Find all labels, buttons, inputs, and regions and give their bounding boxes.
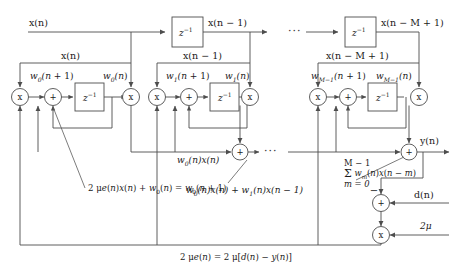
- tap-2-input-label: x(n − M + 1): [326, 51, 389, 61]
- minus-sign-label: −: [369, 186, 379, 196]
- error-gain-multiplier-symbol: x: [375, 231, 387, 240]
- tap-1-multiplier-symbol: x: [151, 93, 163, 102]
- delay-block-2-label: z−1: [352, 27, 366, 38]
- tap-0-multiplier-symbol: x: [14, 93, 26, 102]
- delay-block-1-label: z−1: [179, 27, 193, 38]
- tap-2-weight-next-label: wM−1(n + 1): [311, 72, 366, 83]
- summing-junction-1-symbol: +: [234, 148, 246, 157]
- delay-1-output-label: x(n − 1): [208, 18, 247, 28]
- desired-signal-label: d(n): [414, 190, 434, 200]
- tap-1-weight-next-label: w1(n + 1): [166, 72, 209, 83]
- block-diagram-svg: [0, 0, 464, 275]
- tap-2-adder-symbol: +: [342, 93, 354, 102]
- tap-2-multiplier-symbol: x: [312, 93, 324, 102]
- summation-ellipsis: ···: [264, 146, 278, 157]
- tap-2-weight-label: wM−1(n): [376, 72, 412, 83]
- delay-line-ellipsis: ···: [288, 26, 302, 37]
- tap-0-weight-next-label: w0(n + 1): [30, 72, 73, 83]
- error-adder-symbol: +: [375, 199, 387, 208]
- tap-0-adder-symbol: +: [47, 93, 59, 102]
- sum-lower-limit: m = 0: [344, 180, 416, 189]
- tap-0-input-label: x(n): [61, 51, 80, 61]
- tap-0-output-multiplier-symbol: x: [125, 93, 137, 102]
- output-label: y(n): [420, 136, 439, 146]
- tap-1-delay-label: z−1: [218, 92, 232, 103]
- tap-0-update-equation: 2 μe(n)x(n) + w0(n) = w0(n + 1): [88, 184, 226, 196]
- tap-0-product-label: w0(n)x(n): [177, 156, 219, 167]
- gain-label: 2μ: [420, 222, 432, 231]
- tap-0-weight-label: w0(n): [103, 72, 127, 83]
- output-adder-symbol: +: [403, 148, 415, 157]
- figure-canvas: x(n) x(n − 1) x(n − M + 1) ··· z−1 z−1 x…: [0, 0, 464, 275]
- tap-1-output-multiplier-symbol: x: [244, 93, 256, 102]
- tap-2-output-multiplier-symbol: x: [413, 93, 425, 102]
- tap-1-weight-label: w1(n): [225, 72, 249, 83]
- tap-0-delay-label: z−1: [83, 92, 97, 103]
- delay-M-output-label: x(n − M + 1): [381, 18, 444, 28]
- tap-1-input-label: x(n − 1): [183, 51, 222, 61]
- delay-line-input-label: x(n): [29, 18, 48, 28]
- sum-expression: M − 1 Σ wm(n)x(n − m) m = 0: [344, 159, 416, 189]
- tap-0-group: [12, 63, 232, 245]
- error-equation: 2 μe(n) = 2 μ[d(n) − y(n)]: [180, 253, 292, 262]
- sum-upper-limit: M − 1: [344, 159, 416, 168]
- tap-2-delay-label: z−1: [376, 92, 390, 103]
- tap-1-adder-symbol: +: [183, 93, 195, 102]
